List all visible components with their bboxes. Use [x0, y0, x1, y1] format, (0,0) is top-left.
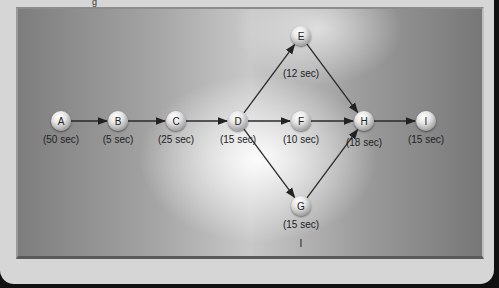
node-c-time: (25 sec) [158, 134, 194, 145]
node-h: H [354, 111, 374, 131]
footnote-mark: I [300, 238, 303, 249]
node-c: C [166, 111, 186, 131]
node-b: B [108, 111, 128, 131]
node-g-time: (15 sec) [283, 219, 319, 230]
node-f: F [291, 111, 311, 131]
node-a: A [51, 111, 71, 131]
node-f-time: (10 sec) [283, 134, 319, 145]
node-g: G [291, 196, 311, 216]
node-d: D [228, 111, 248, 131]
node-h-time: (18 sec) [346, 137, 382, 148]
node-e: E [291, 26, 311, 46]
node-d-time: (15 sec) [220, 134, 256, 145]
node-a-time: (50 sec) [43, 134, 79, 145]
node-i-time: (15 sec) [408, 134, 444, 145]
node-e-time: (12 sec) [283, 68, 319, 79]
node-b-time: (5 sec) [103, 134, 134, 145]
node-i: I [416, 111, 436, 131]
